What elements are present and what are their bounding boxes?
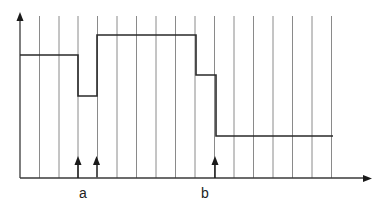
event-marker-b [212, 156, 219, 178]
y-axis [17, 12, 24, 178]
step-signal-diagram: a b [0, 0, 389, 209]
x-axis [20, 175, 372, 182]
grid-lines [40, 16, 332, 178]
x-axis-arrow-icon [363, 175, 372, 182]
up-arrow-icon [93, 156, 100, 165]
label-a: a [79, 185, 87, 201]
step-signal-line [20, 35, 333, 136]
up-arrow-icon [212, 156, 219, 165]
event-marker-a2 [93, 156, 100, 178]
y-axis-arrow-icon [17, 12, 24, 21]
event-marker-a1 [75, 156, 82, 178]
label-b: b [201, 185, 209, 201]
up-arrow-icon [75, 156, 82, 165]
